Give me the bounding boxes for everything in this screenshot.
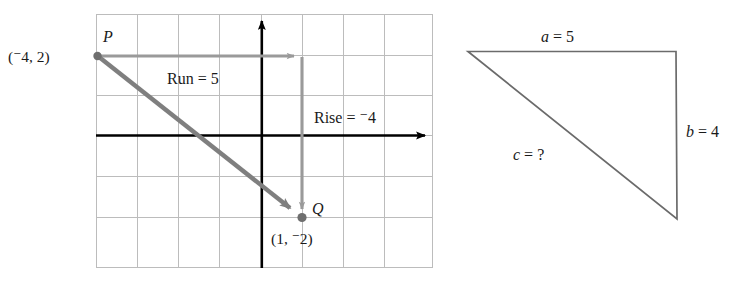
coordinate-plane: P (⁻4, 2) Q (1, ⁻2) Run = 5 Rise = ⁻4 — [8, 14, 433, 268]
right-triangle-diagram: a = 5 b = 4 c = ? — [468, 28, 719, 219]
point-q-dot — [297, 213, 306, 222]
rise-label: Rise = ⁻4 — [314, 109, 376, 126]
side-a-value: = 5 — [553, 28, 574, 45]
triangle-outline — [468, 52, 677, 220]
side-b-value: = 4 — [698, 123, 719, 140]
figure-container: P (⁻4, 2) Q (1, ⁻2) Run = 5 Rise = ⁻4 a … — [0, 0, 748, 285]
run-label: Run = 5 — [167, 70, 219, 87]
triangle-side-a-label: a = 5 — [541, 28, 574, 45]
grid-lines — [96, 14, 433, 268]
side-a-variable: a — [541, 28, 549, 45]
side-c-variable: c — [513, 146, 520, 163]
triangle-side-b-label: b = 4 — [686, 123, 719, 140]
point-p-label: P — [102, 28, 113, 45]
triangle-side-c-label: c = ? — [513, 146, 544, 163]
side-b-variable: b — [686, 123, 694, 140]
point-p-dot — [93, 52, 101, 60]
point-q-label: Q — [312, 200, 324, 217]
point-p-coordinate-label: (⁻4, 2) — [8, 48, 50, 66]
figure-svg: P (⁻4, 2) Q (1, ⁻2) Run = 5 Rise = ⁻4 a … — [0, 0, 748, 285]
axes — [96, 21, 425, 268]
point-q-coordinate-label: (1, ⁻2) — [271, 230, 313, 248]
side-c-value: = ? — [524, 146, 544, 163]
